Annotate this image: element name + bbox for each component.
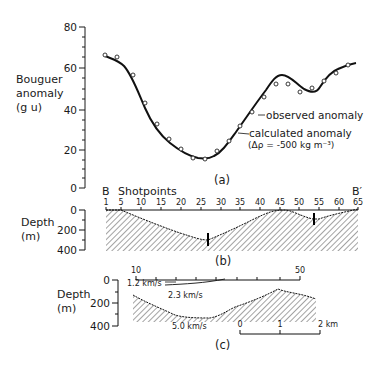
- depth-b-400: 400: [57, 244, 77, 256]
- depth-c-0: 0: [103, 274, 110, 286]
- svg-text:55: 55: [314, 198, 324, 207]
- y-axis-ticks: [79, 27, 85, 188]
- svg-text:35: 35: [235, 198, 245, 207]
- svg-text:5: 5: [118, 198, 123, 207]
- velocity-3-label: 5.0 km/s: [172, 322, 207, 331]
- svg-text:50: 50: [294, 198, 304, 207]
- figure: Bouguer anomaly (g u) 80 60 40 20: [0, 0, 385, 373]
- shotpoint-tick-labels: 1 5 10 15 20 25 30 35 40 45 50 55 60 65: [103, 198, 363, 207]
- shotpoints-title: Shotpoints: [118, 185, 177, 198]
- svg-text:25: 25: [196, 198, 206, 207]
- scale-0: 0: [237, 320, 242, 329]
- caption-a: (a): [214, 173, 230, 187]
- svg-text:40: 40: [255, 198, 265, 207]
- panel-b: B Shotpoints B′ 1 5 10 15 20 25 30 35 40…: [21, 185, 363, 268]
- svg-text:45: 45: [275, 198, 285, 207]
- svg-text:20: 20: [176, 198, 186, 207]
- svg-text:10: 10: [136, 198, 146, 207]
- panel-c: 10 50 1.2 km/s 2.3 km/s 5.0 km/s 0 200: [57, 266, 338, 352]
- depth-label-c-2: (m): [57, 302, 76, 315]
- ytick-40: 40: [64, 104, 77, 116]
- ytick-0: 0: [70, 182, 77, 194]
- depth-label-b-1: Depth: [21, 216, 55, 229]
- velocity-2-label: 2.3 km/s: [168, 291, 203, 300]
- ytick-80: 80: [64, 21, 77, 33]
- panel-a: Bouguer anomaly (g u) 80 60 40 20: [16, 21, 363, 194]
- scale-bar-ticks: [240, 330, 320, 334]
- depth-c-200: 200: [90, 297, 110, 309]
- depth-c-400: 400: [90, 320, 110, 332]
- depth-b-200: 200: [57, 224, 77, 236]
- panel-a-ylabel-2: anomaly: [16, 87, 64, 100]
- panel-a-ylabel-3: (g u): [16, 101, 42, 114]
- basement-hatch-c: [133, 289, 316, 322]
- legend-observed: observed anomaly: [266, 109, 363, 121]
- calculated-arrow: [238, 133, 249, 134]
- panel-a-ylabel-1: Bouguer: [16, 73, 63, 86]
- shotpoint-50-label: 50: [295, 266, 305, 275]
- caption-b: (b): [215, 254, 231, 268]
- svg-text:60: 60: [334, 198, 344, 207]
- profile-end-label: B′: [352, 185, 363, 198]
- depth-ticks-b: [79, 210, 85, 250]
- svg-text:30: 30: [216, 198, 226, 207]
- depth-label-b-2: (m): [21, 230, 40, 243]
- scale-1: 1: [277, 320, 282, 329]
- svg-text:15: 15: [156, 198, 166, 207]
- velocity-1-label: 1.2 km/s: [127, 279, 162, 288]
- depth-label-c-1: Depth: [57, 288, 91, 301]
- depth-ticks-c: [112, 280, 118, 326]
- svg-text:65: 65: [353, 198, 363, 207]
- caption-c: (c): [215, 338, 230, 352]
- svg-text:1: 1: [103, 198, 108, 207]
- legend-calculated: calculated anomaly: [249, 127, 352, 139]
- depth-b-0: 0: [70, 204, 77, 216]
- shotpoint-10-label: 10: [131, 266, 141, 275]
- ytick-60: 60: [64, 62, 77, 74]
- scale-2: 2 km: [318, 320, 338, 329]
- legend-density: (Δρ = -500 kg m⁻³): [248, 140, 334, 150]
- ytick-20: 20: [64, 144, 77, 156]
- profile-start-label: B: [102, 185, 110, 198]
